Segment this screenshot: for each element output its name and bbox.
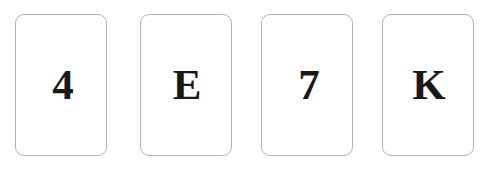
card-table: 4 E 7 K <box>0 0 497 171</box>
card-four-face: 4 <box>52 63 74 106</box>
card-four[interactable]: 4 <box>15 14 107 156</box>
card-k[interactable]: K <box>382 14 474 156</box>
card-e-face: E <box>173 63 202 106</box>
card-seven-face: 7 <box>298 63 320 106</box>
card-k-face: K <box>412 63 445 106</box>
card-seven[interactable]: 7 <box>261 14 353 156</box>
card-e[interactable]: E <box>140 14 232 156</box>
